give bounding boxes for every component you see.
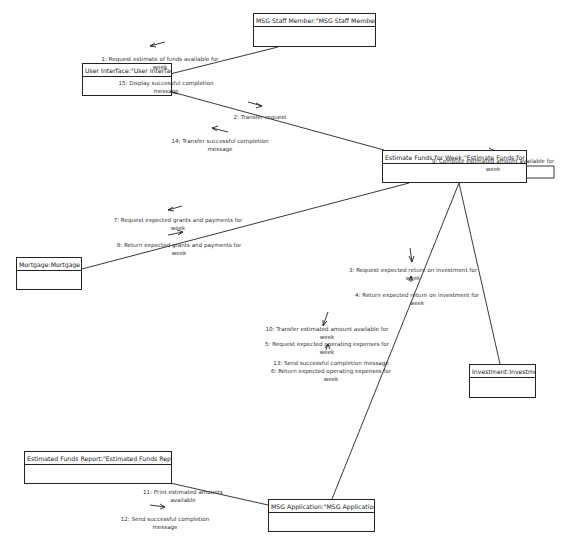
object-label: Investment:Investment <box>470 365 535 378</box>
message-2: 2: Transfer request <box>220 114 300 122</box>
object-label: Estimated Funds Report:"Estimated Funds … <box>25 452 171 465</box>
message-5: 5: Request expected operating expenses f… <box>262 341 392 356</box>
message-14: 14: Transfer successful completion messa… <box>165 138 275 153</box>
object-msg-application[interactable]: MSG Application:"MSG Application" <box>268 499 375 532</box>
message-3: 3: Request expected return on investment… <box>348 267 478 282</box>
object-msg-staff-member[interactable]: MSG Staff Member:"MSG Staff Member" <box>253 13 376 47</box>
object-investment[interactable]: Investment:Investment <box>469 364 536 398</box>
object-label: MSG Application:"MSG Application" <box>269 500 374 513</box>
object-mortgage[interactable]: Mortgage:Mortgage <box>16 257 82 290</box>
message-6: 6: Return expected operating expenses fo… <box>268 368 394 383</box>
object-label: MSG Staff Member:"MSG Staff Member" <box>254 14 375 27</box>
message-10: 10: Transfer estimated amount available … <box>262 326 392 341</box>
message-15: 15: Display successful completion messag… <box>112 80 220 95</box>
object-estimated-funds-report[interactable]: Estimated Funds Report:"Estimated Funds … <box>24 451 172 484</box>
message-4: 4: Return expected return on investment … <box>352 292 482 307</box>
message-12: 12: Send successful completion message <box>110 516 220 531</box>
collaboration-diagram: MSG Staff Member:"MSG Staff Member" User… <box>0 0 563 544</box>
object-label: Mortgage:Mortgage <box>17 258 81 271</box>
message-13: 13: Send successful completion message <box>266 360 396 368</box>
message-9: 9: Compute estimated amount available fo… <box>428 158 558 173</box>
message-11: 11: Print estimated amounts available <box>140 489 226 504</box>
message-7: 7: Request expected grants and payments … <box>108 217 248 232</box>
message-1: 1: Request estimate of funds available f… <box>100 56 220 71</box>
message-8: 8: Return expected grants and payments f… <box>110 242 248 257</box>
